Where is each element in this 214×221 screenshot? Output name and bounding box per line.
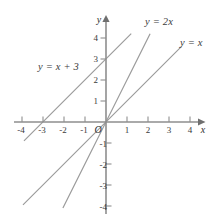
x-axis-label: x bbox=[200, 124, 206, 135]
x-tick-labels: -4 -3 -2 -1 1 2 3 4 bbox=[17, 125, 193, 135]
y-tick-label: -4 bbox=[100, 202, 108, 212]
y-tick-label: 4 bbox=[94, 33, 99, 43]
y-tick-label: 2 bbox=[94, 75, 99, 85]
x-tick-label: 1 bbox=[125, 125, 130, 135]
y-axis-arrowhead bbox=[102, 15, 109, 22]
equation-label-y-equals-x-plus-3: y = x + 3 bbox=[38, 61, 79, 72]
y-tick-label: -2 bbox=[100, 160, 108, 170]
y-tick-label: 1 bbox=[94, 96, 99, 106]
coordinate-plane: -4 -3 -2 -1 1 2 3 4 4 3 2 1 -1 -2 -3 -4 … bbox=[0, 0, 214, 221]
x-tick-label: 3 bbox=[167, 125, 172, 135]
x-tick-label: 2 bbox=[146, 125, 151, 135]
y-tick-label: -3 bbox=[100, 181, 108, 191]
x-tick-label: 4 bbox=[188, 125, 193, 135]
x-tick-label: -1 bbox=[80, 125, 88, 135]
equation-label-y-equals-2x: y = 2x bbox=[145, 16, 173, 27]
x-tick-label: -4 bbox=[17, 125, 25, 135]
y-tick-label: -1 bbox=[100, 139, 108, 149]
y-tick-label: 3 bbox=[94, 54, 99, 64]
x-tick-label: -2 bbox=[59, 125, 67, 135]
x-tick-label: -3 bbox=[38, 125, 46, 135]
origin-label: O bbox=[94, 124, 101, 135]
equation-label-y-equals-x: y = x bbox=[180, 37, 203, 48]
y-axis-label: y bbox=[96, 14, 102, 25]
graph-figure: -4 -3 -2 -1 1 2 3 4 4 3 2 1 -1 -2 -3 -4 … bbox=[0, 0, 214, 221]
